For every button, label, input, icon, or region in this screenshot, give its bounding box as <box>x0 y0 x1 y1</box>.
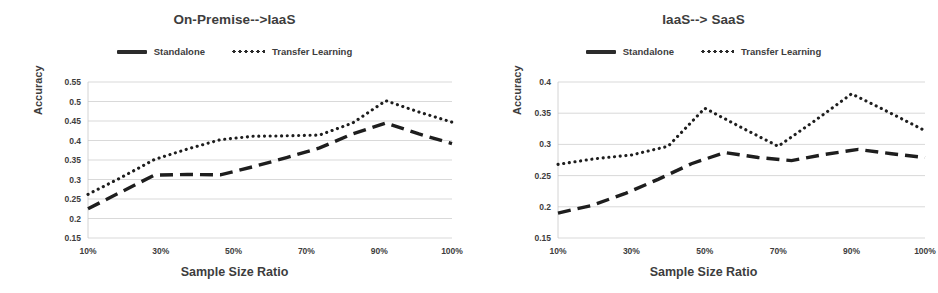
x-axis-tick-label: 90% <box>843 246 860 256</box>
y-axis-tick-label: 0.3 <box>539 139 551 149</box>
y-axis-tick-label: 0.5 <box>69 97 81 107</box>
y-axis-tick-label: 0.15 <box>534 233 551 243</box>
y-axis-tick-label: 0.25 <box>64 194 81 204</box>
x-axis-title: Sample Size Ratio <box>0 265 469 279</box>
y-axis-tick-label: 0.3 <box>69 175 81 185</box>
plot-area-left: 0.150.20.250.30.350.40.450.50.5510%30%50… <box>0 0 469 293</box>
y-axis-tick-label: 0.4 <box>69 136 81 146</box>
figure-two-panel-line-charts: On-Premise-->IaaS Standalone Transfer Le… <box>0 0 938 293</box>
y-axis-tick-label: 0.45 <box>64 116 81 126</box>
plot-area-right: 0.150.20.250.30.350.410%30%50%70%90%100% <box>469 0 938 293</box>
x-axis-tick-label: 10% <box>549 246 566 256</box>
y-axis-tick-label: 0.55 <box>64 77 81 87</box>
series-line-transfer-learning <box>558 94 925 165</box>
chart-panel-iaas-to-saas: IaaS--> SaaS Standalone Transfer Learnin… <box>469 0 938 293</box>
x-axis-title: Sample Size Ratio <box>469 265 938 279</box>
x-axis-tick-label: 30% <box>152 246 169 256</box>
x-axis-tick-label: 50% <box>696 246 713 256</box>
x-axis-tick-label: 10% <box>79 246 96 256</box>
x-axis-tick-label: 70% <box>298 246 315 256</box>
y-axis-tick-label: 0.35 <box>64 155 81 165</box>
y-axis-tick-label: 0.4 <box>539 77 551 87</box>
y-axis-tick-label: 0.2 <box>69 214 81 224</box>
chart-panel-on-premise-to-iaas: On-Premise-->IaaS Standalone Transfer Le… <box>0 0 469 293</box>
y-axis-tick-label: 0.35 <box>534 108 551 118</box>
y-axis-tick-label: 0.25 <box>534 171 551 181</box>
series-line-standalone <box>558 149 925 213</box>
x-axis-tick-label: 100% <box>441 246 463 256</box>
y-axis-tick-label: 0.15 <box>64 233 81 243</box>
y-axis-tick-label: 0.2 <box>539 202 551 212</box>
x-axis-tick-label: 70% <box>770 246 787 256</box>
x-axis-tick-label: 90% <box>371 246 388 256</box>
x-axis-tick-label: 100% <box>914 246 936 256</box>
x-axis-tick-label: 50% <box>225 246 242 256</box>
x-axis-tick-label: 30% <box>623 246 640 256</box>
